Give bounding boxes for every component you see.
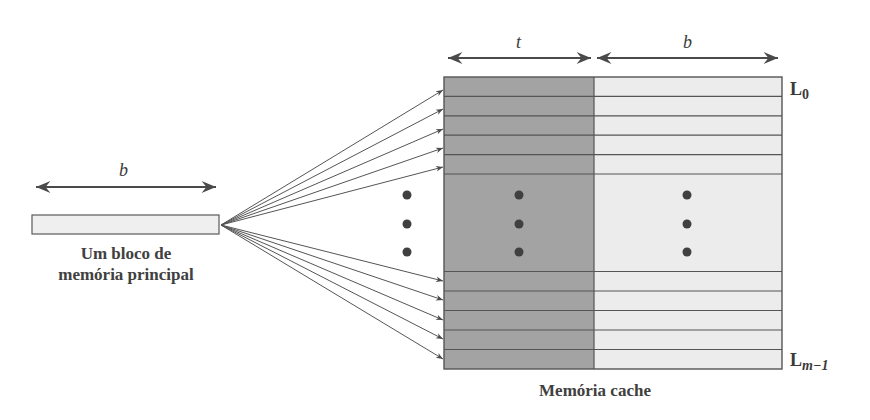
main-memory-width-label: b (119, 160, 128, 181)
cache-caption: Memória cache (520, 380, 670, 401)
first-line-subscript: 0 (802, 87, 809, 102)
main-memory-caption-line1: Um bloco de (40, 243, 212, 264)
diagram-canvas (0, 0, 870, 420)
first-line-label: L0 (790, 79, 809, 103)
block-width-label: b (683, 32, 692, 53)
main-memory-block (32, 215, 219, 234)
first-line-letter: L (790, 79, 802, 99)
last-line-subscript: m−1 (802, 358, 828, 373)
last-line-letter: L (790, 350, 802, 370)
tag-width-label: t (516, 32, 521, 53)
main-memory-caption-line2: memória principal (40, 264, 212, 285)
last-line-label: Lm−1 (790, 350, 828, 374)
main-memory-caption: Um bloco de memória principal (40, 243, 212, 285)
